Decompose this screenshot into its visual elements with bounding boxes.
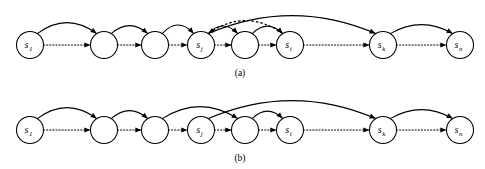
chain-arrow-panel-b-4 — [270, 128, 276, 133]
chain-arrow-panel-b-5 — [363, 128, 369, 133]
arrowhead-a-arc-6 — [369, 29, 376, 34]
node-a-n3[interactable] — [142, 32, 169, 59]
chain-arrow-panel-a-2 — [181, 43, 187, 48]
arrowhead-b-arc-1 — [90, 113, 96, 119]
chain-arrow-panel-b-6 — [440, 128, 446, 133]
arc-a-arc-7 — [390, 25, 453, 34]
chain-arrow-panel-b-1 — [135, 128, 141, 133]
chain-arrow-panel-b-3 — [225, 128, 231, 133]
panel-caption-panel-b: (b) — [234, 153, 245, 164]
panel-a-group: s1sjsisksn(a) — [17, 16, 474, 79]
arrowhead-a-arc-1 — [90, 28, 96, 34]
node-sublabel-b-n1: 1 — [29, 129, 33, 137]
arc-a-arc-2 — [111, 26, 148, 34]
arrowhead-a-arc-7 — [446, 28, 453, 33]
node-sublabel-a-n8: n — [459, 44, 463, 52]
arrowhead-a-arc-3 — [188, 27, 194, 33]
panel-caption-panel-a: (a) — [235, 68, 246, 79]
chain-arrow-panel-a-5 — [363, 43, 369, 48]
arrowhead-b-arc-5 — [369, 114, 376, 119]
chain-arrow-panel-a-1 — [135, 43, 141, 48]
arrowhead-b-arc-4 — [277, 112, 283, 118]
arrowhead-b-arc-3 — [231, 113, 238, 118]
arc-a-arc-1 — [37, 23, 97, 34]
arrowhead-b-arc-6 — [446, 113, 453, 118]
node-sublabel-b-n4: j — [200, 129, 203, 137]
node-b-n3[interactable] — [142, 117, 169, 144]
node-sublabel-a-n4: j — [200, 44, 203, 52]
node-sublabel-a-n6: i — [290, 44, 292, 52]
node-a-n5[interactable] — [232, 32, 259, 59]
arc-b-arc-1 — [37, 108, 97, 119]
arrowhead-b-arc-2 — [141, 113, 147, 119]
node-sublabel-b-n8: n — [459, 129, 463, 137]
chain-arrow-panel-b-2 — [181, 128, 187, 133]
node-sublabel-a-n1: 1 — [29, 44, 33, 52]
chain-arrow-panel-a-6 — [440, 43, 446, 48]
chain-arrow-panel-b-0 — [84, 128, 90, 133]
arc-b-arc-6 — [390, 110, 453, 119]
node-b-n5[interactable] — [232, 117, 259, 144]
node-a-n2[interactable] — [91, 32, 118, 59]
node-sublabel-b-n6: i — [290, 129, 292, 137]
arrowhead-a-arc-4 — [232, 27, 238, 33]
chain-arrow-panel-a-3 — [225, 43, 231, 48]
chain-arrow-panel-a-0 — [84, 43, 90, 48]
arc-a-arc-3 — [162, 25, 194, 34]
panel-b-group: s1sjsisksn(b) — [17, 101, 474, 164]
node-b-n2[interactable] — [91, 117, 118, 144]
arc-b-arc-2 — [111, 111, 148, 119]
figure-canvas: s1sjsisksn(a) s1sjsisksn(b) — [0, 0, 485, 169]
chain-arrow-panel-a-4 — [270, 43, 276, 48]
arrowhead-a-arc-2 — [141, 28, 147, 34]
